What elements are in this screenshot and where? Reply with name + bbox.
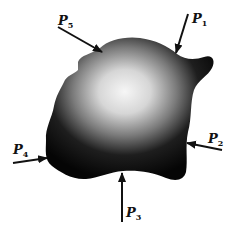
force-label-p2: P2: [208, 132, 223, 147]
force-arrow-p4: [13, 158, 47, 163]
force-label-p3: P3: [126, 206, 141, 221]
force-label-p1: P1: [192, 12, 207, 27]
force-label-p4: P4: [13, 143, 28, 158]
force-label-p5: P5: [58, 14, 73, 29]
force-arrow-p1: [176, 14, 188, 53]
irregular-body: [46, 37, 214, 180]
force-arrow-p5: [58, 27, 102, 52]
force-diagram: [0, 0, 234, 240]
